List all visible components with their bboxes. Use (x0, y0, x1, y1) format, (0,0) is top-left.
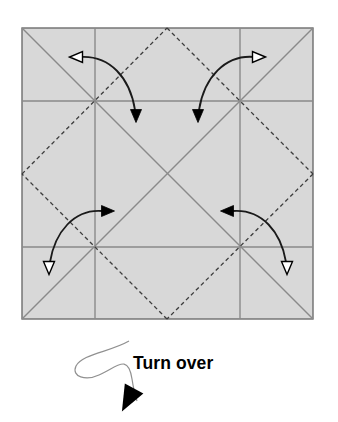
turn-over-arrowhead (113, 384, 144, 417)
diagram-canvas: Turn over (0, 0, 338, 422)
turn-over-label: Turn over (133, 355, 213, 373)
